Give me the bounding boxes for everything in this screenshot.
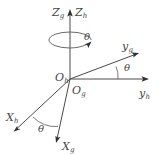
label-z-h-base: Z <box>75 6 83 19</box>
angle-arc-y <box>116 67 118 80</box>
label-o-h: Oh <box>55 68 69 85</box>
x-g-axis-line <box>57 79 70 139</box>
label-x-h: Xh <box>6 108 19 125</box>
rotation-arrowhead <box>85 42 92 49</box>
label-o-h-sub: h <box>64 77 69 85</box>
label-x-g: Xg <box>62 137 75 154</box>
x-g-axis-arrowhead <box>55 136 60 143</box>
label-y-h-sub: h <box>145 93 150 101</box>
label-theta-y: θ <box>124 63 130 73</box>
label-z-g-sub: g <box>60 12 64 20</box>
angle-arc-x <box>33 117 58 127</box>
label-x-h-sub: h <box>14 117 19 125</box>
label-z-g-base: Z <box>52 6 60 19</box>
diagram-canvas <box>0 0 160 155</box>
x-h-axis-arrowhead <box>14 126 21 132</box>
label-o-h-base: O <box>55 71 64 84</box>
label-o-g-sub: g <box>81 90 85 98</box>
label-theta-spin: θ <box>84 32 90 42</box>
label-o-g: Og <box>72 81 86 98</box>
label-y-g: yg <box>122 37 133 54</box>
label-y-h: yh <box>139 84 150 101</box>
label-x-g-base: X <box>62 140 70 153</box>
label-theta-x: θ <box>38 124 44 134</box>
label-z-g: Zg <box>52 3 64 20</box>
x-h-axis-line <box>17 79 70 129</box>
label-o-g-base: O <box>72 84 81 97</box>
coordinate-frame-diagram: Zg Zh θ yg θ yh Oh Og Xh θ Xg <box>0 0 160 155</box>
label-x-g-sub: g <box>70 146 74 154</box>
label-z-h: Zh <box>75 3 87 20</box>
label-z-h-sub: h <box>83 12 88 20</box>
label-y-g-sub: g <box>128 46 132 54</box>
label-x-h-base: X <box>6 111 14 124</box>
